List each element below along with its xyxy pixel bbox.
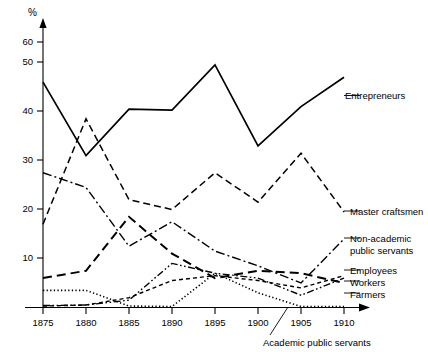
label-master-craftsmen: Master craftsmen	[350, 206, 423, 217]
y-axis-ticks	[37, 42, 43, 258]
label-non-academic-public-servants-line1: Non-academic	[350, 233, 411, 244]
label-entrepreneurs: Entrepreneurs	[345, 90, 405, 101]
leader-lines	[270, 96, 360, 336]
y-tick-label-20: 20	[22, 203, 33, 214]
line-chart-svg: % 10 20 30 40 50 60	[0, 0, 428, 352]
label-employees: Employees	[350, 265, 397, 276]
series-labels: Entrepreneurs Master craftsmen Non-acade…	[263, 90, 423, 348]
data-series-group	[43, 65, 344, 307]
series-line-entrepreneurs	[43, 65, 344, 156]
x-axis-arrowhead	[359, 304, 370, 312]
series-line-employees	[43, 217, 344, 283]
x-tick-label-1910: 1910	[333, 317, 354, 328]
y-axis-arrowhead	[39, 18, 46, 28]
y-axis-unit-label: %	[28, 7, 37, 18]
series-line-farmers	[43, 276, 344, 306]
series-line-workers	[43, 263, 344, 305]
y-axis: 10 20 30 40 50 60	[22, 18, 46, 308]
series-line-master-craftsmen	[43, 119, 344, 224]
label-non-academic-public-servants-line2: public servants	[350, 245, 414, 256]
y-tick-label-10: 10	[22, 252, 33, 263]
x-tick-label-1880: 1880	[75, 317, 96, 328]
x-tick-label-1905: 1905	[290, 317, 311, 328]
y-tick-label-40: 40	[22, 105, 33, 116]
label-academic-public-servants: Academic public servants	[263, 337, 371, 348]
x-tick-label-1895: 1895	[204, 317, 225, 328]
y-tick-label-50: 50	[22, 56, 33, 67]
leader-academic-public-servants	[270, 307, 288, 335]
y-tick-label-30: 30	[22, 154, 33, 165]
y-tick-label-60: 60	[22, 36, 33, 47]
label-workers: Workers	[350, 277, 385, 288]
x-tick-label-1885: 1885	[118, 317, 139, 328]
x-tick-label-1900: 1900	[247, 317, 268, 328]
label-farmers: Farmers	[350, 289, 386, 300]
x-axis-ticks	[43, 308, 344, 315]
x-tick-label-1890: 1890	[161, 317, 182, 328]
chart-container: % 10 20 30 40 50 60	[0, 0, 428, 352]
x-tick-label-1875: 1875	[32, 317, 53, 328]
